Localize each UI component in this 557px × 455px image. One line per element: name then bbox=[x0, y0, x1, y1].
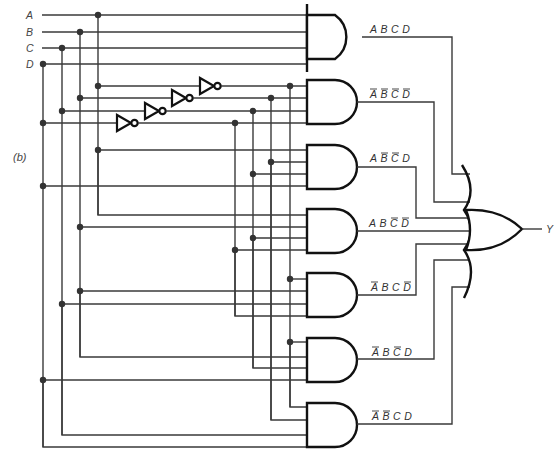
input-label-d: D bbox=[26, 58, 34, 70]
and-gate-7-icon bbox=[307, 403, 357, 447]
term-label-3: ABCD bbox=[369, 152, 412, 164]
and-gate-6-icon bbox=[307, 338, 357, 382]
and-gate-1-icon bbox=[307, 4, 346, 72]
and-gate-5-icon bbox=[307, 273, 357, 317]
input-label-b: B bbox=[26, 26, 33, 38]
gate3-wiring bbox=[43, 150, 307, 186]
and-gates bbox=[307, 4, 357, 447]
term-label-2: ABCD bbox=[369, 88, 412, 100]
term-label-7: ABCD bbox=[371, 410, 414, 422]
complement-lines bbox=[138, 86, 307, 123]
svg-text:ABCD: ABCD bbox=[370, 281, 413, 293]
svg-text:ABCD: ABCD bbox=[369, 88, 412, 100]
svg-text:ABCD: ABCD bbox=[369, 152, 412, 164]
term-label-4: ABCD bbox=[368, 217, 411, 229]
input-labels: A B C D bbox=[25, 9, 34, 70]
logic-circuit-diagram: A B C D bbox=[0, 0, 557, 455]
and-gate-2-icon bbox=[307, 80, 357, 124]
gate6-wiring bbox=[43, 238, 307, 380]
svg-text:ABCD: ABCD bbox=[368, 217, 411, 229]
and-gate-4-icon bbox=[307, 209, 357, 253]
output-label-y: Y bbox=[546, 223, 554, 235]
inverter-c-icon bbox=[145, 103, 166, 119]
input-label-a: A bbox=[25, 9, 33, 21]
complement-buses bbox=[235, 86, 290, 420]
term-labels: ABCD ABCD ABCD ABCD ABCD bbox=[368, 23, 414, 422]
gate4-wiring bbox=[80, 150, 307, 250]
svg-text:ABCD: ABCD bbox=[371, 410, 414, 422]
or-gate-icon bbox=[462, 165, 542, 298]
true-buses bbox=[43, 15, 98, 447]
term-label-6: ABCD bbox=[371, 346, 414, 358]
gate5-wiring bbox=[62, 250, 307, 316]
inverter-b-icon bbox=[172, 90, 193, 106]
term-label-5: ABCD bbox=[370, 281, 413, 293]
input-label-c: C bbox=[26, 42, 34, 54]
inverter-d-icon bbox=[117, 115, 138, 131]
junction-dots bbox=[40, 12, 293, 383]
term-label-1: ABCD bbox=[369, 23, 412, 35]
and-gate-3-icon bbox=[307, 145, 357, 189]
svg-text:ABCD: ABCD bbox=[371, 346, 414, 358]
inverter-a-icon bbox=[200, 78, 221, 94]
input-lines bbox=[42, 15, 307, 64]
